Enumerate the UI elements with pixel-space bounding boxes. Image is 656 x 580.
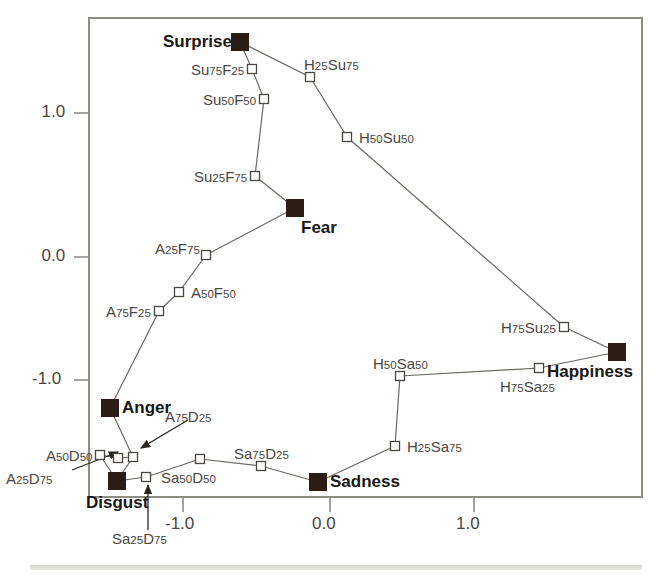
blend-marker[interactable] [251,172,260,181]
blend-name-label: Su50F50 [203,91,256,108]
emotion-name-label: Sadness [330,472,400,492]
emotion-name-label: Fear [301,218,337,238]
blend-name-label: A25F75 [155,240,200,257]
blend-marker[interactable] [175,288,184,297]
blend-marker[interactable] [196,455,205,464]
blend-marker[interactable] [396,372,405,381]
blend-name-label: A50D50 [46,447,92,464]
edge-line [206,208,295,255]
blend-name-label: Sa50D50 [161,469,216,486]
blend-marker[interactable] [260,95,269,104]
blend-marker[interactable] [155,307,164,316]
blend-name-label: H75Su25 [501,319,556,336]
blend-name-label: H75Sa25 [500,378,555,395]
blend-name-label: H25Su75 [304,56,359,73]
edge-line [347,137,564,327]
blend-name-label: H50Su50 [359,129,414,146]
blend-marker[interactable] [306,73,315,82]
emotion-name-label: Disgust [86,493,148,513]
blend-marker[interactable] [257,462,266,471]
edge-line [310,77,347,137]
prototype-marker[interactable] [102,400,119,417]
blend-marker[interactable] [96,451,105,460]
blend-marker[interactable] [535,364,544,373]
blend-marker[interactable] [343,133,352,142]
blend-marker[interactable] [202,251,211,260]
blend-marker[interactable] [114,454,123,463]
blend-name-label: Su75F25 [191,61,244,78]
edge-line [110,311,159,408]
blend-name-label: H50Sa50 [373,355,428,372]
prototype-marker[interactable] [609,344,626,361]
prototype-marker[interactable] [310,474,327,491]
y-tick-label: -1.0 [32,369,61,389]
figure-canvas: -1.00.01.01.00.0-1.0SurpriseFearAngerDis… [0,0,656,580]
blend-name-label: H25Sa75 [407,438,462,455]
emotion-name-label: Anger [122,398,171,418]
bottom-divider-band [30,565,642,570]
y-tick-label: 1.0 [42,102,66,122]
emotion-name-label: Happiness [547,362,633,382]
edge-line [395,376,400,446]
blend-marker[interactable] [391,442,400,451]
blend-name-label: A75F25 [106,303,151,320]
blend-marker[interactable] [248,65,257,74]
y-tick-label: 0.0 [42,246,66,266]
blend-name-label: Sa25D75 [112,530,167,547]
blend-marker[interactable] [142,473,151,482]
prototype-marker[interactable] [287,200,304,217]
x-tick-label: 1.0 [456,514,480,534]
blend-name-label: A75D25 [165,408,211,425]
blend-name-label: Su25F75 [194,168,247,185]
blend-name-label: Sa75D25 [234,445,289,462]
prototype-marker[interactable] [109,473,126,490]
blend-name-label: A50F50 [191,284,236,301]
prototype-marker[interactable] [232,34,249,51]
x-tick-label: -1.0 [165,514,194,534]
blend-marker[interactable] [560,323,569,332]
blend-marker[interactable] [129,453,138,462]
x-tick-label: 0.0 [312,514,336,534]
emotion-name-label: Surprise [163,32,232,52]
blend-name-label: A25D75 [6,470,52,487]
edge-line [255,99,264,176]
